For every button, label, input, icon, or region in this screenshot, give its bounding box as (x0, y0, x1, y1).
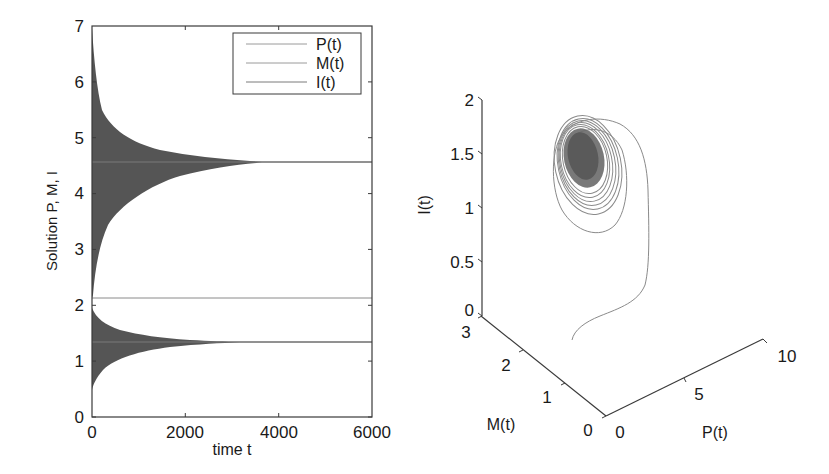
y-axis-label: Solution P, M, I (43, 171, 60, 271)
p-ticks (684, 339, 767, 382)
i-tick-label: 0 (465, 301, 474, 320)
legend: P(t) M(t) I(t) (233, 33, 361, 94)
y-ticks (92, 82, 372, 417)
m-tick-label: 3 (461, 323, 470, 342)
y-tick-label: 2 (75, 296, 84, 315)
y-tick-label: 1 (75, 352, 84, 371)
x-tick-label: 0 (87, 423, 96, 442)
i-envelope-fill (92, 308, 372, 390)
m-tick-label: 1 (542, 388, 551, 407)
y-tick-label: 7 (75, 17, 84, 36)
i-tick-label: 2 (465, 91, 474, 110)
x-tick-label: 2000 (166, 423, 204, 442)
p-tick-label: 5 (694, 385, 703, 404)
m-axis-label: M(t) (487, 416, 515, 433)
legend-label-p: P(t) (316, 36, 342, 53)
y-tick-label: 0 (75, 408, 84, 427)
m-tick-label: 0 (583, 421, 592, 440)
m-tick-label: 2 (501, 356, 510, 375)
phase-portrait-3d: 2 1.5 1 0.5 0 3 2 1 0 0 5 10 I(t) M(t) P… (416, 91, 796, 442)
y-tick-label: 3 (75, 240, 84, 259)
p-tick-label: 0 (615, 423, 624, 442)
p-axis-label: P(t) (702, 424, 728, 441)
p-axis (606, 339, 763, 416)
figure: 0 1 2 3 4 5 6 7 0 2000 4000 6000 time t … (0, 0, 829, 474)
x-axis-label: time t (212, 441, 252, 458)
i-tick-label: 1.5 (450, 145, 474, 164)
x-tick-label: 6000 (353, 423, 391, 442)
legend-label-i: I(t) (316, 74, 336, 91)
y-tick-label: 6 (75, 73, 84, 92)
y-tick-label: 5 (75, 129, 84, 148)
legend-label-m: M(t) (316, 55, 344, 72)
i-tick-label: 0.5 (450, 253, 474, 272)
time-series-plot: 0 1 2 3 4 5 6 7 0 2000 4000 6000 time t … (43, 17, 391, 458)
i-axis-label: I(t) (416, 195, 433, 215)
i-tick-label: 1 (465, 199, 474, 218)
p-tick-label: 10 (778, 347, 797, 366)
x-tick-label: 4000 (260, 423, 298, 442)
y-tick-label: 4 (75, 184, 84, 203)
